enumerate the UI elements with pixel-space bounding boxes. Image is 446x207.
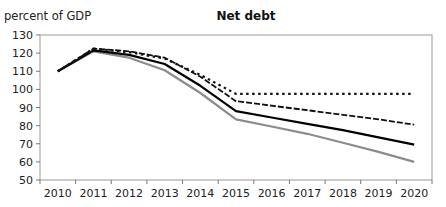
y-tick-label: 120 [12,47,33,60]
x-tick-label: 2015 [222,187,250,200]
chart-title: Net debt [216,9,275,23]
y-tick-label: 100 [12,83,33,96]
x-tick-label: 2019 [365,187,393,200]
y-tick-label: 130 [12,29,33,42]
y-tick-label: 80 [19,120,33,133]
plot-frame [40,35,432,180]
net-debt-chart: percent of GDP Net debt 5060708090100110… [0,0,446,207]
x-tick-label: 2020 [400,187,428,200]
series-line-solid-black [58,50,414,144]
series-line-dashed [58,49,414,125]
y-tick-label: 110 [12,65,33,78]
x-tick-label: 2014 [186,187,214,200]
x-axis: 2010201120122013201420152016201720182019… [40,180,432,200]
y-axis: 5060708090100110120130 [12,29,40,187]
chart-canvas: percent of GDP Net debt 5060708090100110… [0,0,446,207]
y-tick-label: 50 [19,174,33,187]
x-tick-label: 2013 [151,187,179,200]
x-tick-label: 2017 [293,187,321,200]
x-tick-label: 2016 [258,187,286,200]
series-line-solid-gray [58,51,414,162]
y-tick-label: 60 [19,156,33,169]
x-tick-label: 2012 [115,187,143,200]
x-tick-label: 2010 [44,187,72,200]
series-lines [58,49,414,162]
y-tick-label: 90 [19,102,33,115]
x-tick-label: 2018 [329,187,357,200]
y-axis-label: percent of GDP [4,9,91,23]
x-tick-label: 2011 [79,187,107,200]
y-tick-label: 70 [19,138,33,151]
